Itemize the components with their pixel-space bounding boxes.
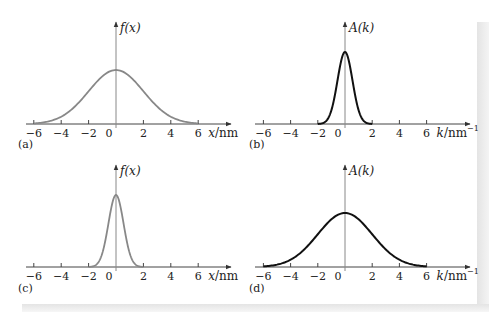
tick-label: 2 [369, 127, 376, 140]
x-axis-label: k/nm−1 [437, 124, 479, 140]
tick-label: 4 [396, 127, 403, 140]
panel-label: (c) [18, 282, 33, 295]
tick-label: 4 [167, 127, 174, 140]
panel-b: −6−4−20246k/nm−1A(k)(b) [249, 21, 479, 151]
tick-label: 6 [423, 127, 430, 140]
tick-label: −4 [282, 127, 298, 140]
y-axis-label: A(k) [348, 164, 375, 178]
tick-label: 2 [140, 270, 147, 283]
y-axis-label: f(x) [119, 21, 141, 35]
panel-label: (d) [249, 282, 265, 295]
tick-label: 2 [140, 127, 147, 140]
tick-label: 0 [335, 127, 342, 140]
panel-label: (a) [18, 138, 33, 151]
tick-label: −4 [53, 270, 69, 283]
tick-label: −4 [53, 127, 69, 140]
x-axis-label: x/nm [208, 126, 239, 140]
tick-label: 0 [106, 127, 113, 140]
y-axis-label: f(x) [119, 164, 141, 178]
tick-label: 6 [195, 270, 202, 283]
tick-label: −2 [310, 270, 326, 283]
tick-label: 6 [195, 127, 202, 140]
tick-label: −4 [282, 270, 298, 283]
x-axis-label: x/nm [208, 269, 239, 283]
tick-label: 4 [167, 270, 174, 283]
tick-label: −2 [310, 127, 326, 140]
tick-label: 0 [106, 270, 113, 283]
panel-d: −6−4−20246k/nm−1A(k)(d) [249, 164, 479, 295]
tick-label: 2 [369, 270, 376, 283]
x-axis-label: k/nm−1 [437, 267, 479, 283]
figure-svg: −6−4−20246x/nmf(x)(a)−6−4−20246k/nm−1A(k… [0, 0, 498, 322]
y-axis-label: A(k) [348, 21, 375, 35]
tick-label: −2 [80, 270, 96, 283]
tick-label: −2 [80, 127, 96, 140]
tick-label: 6 [423, 270, 430, 283]
panel-a: −6−4−20246x/nmf(x)(a) [18, 21, 239, 151]
panel-label: (b) [249, 138, 265, 151]
tick-label: 4 [396, 270, 403, 283]
panel-c: −6−4−20246x/nmf(x)(c) [18, 164, 239, 295]
tick-label: 0 [335, 270, 342, 283]
